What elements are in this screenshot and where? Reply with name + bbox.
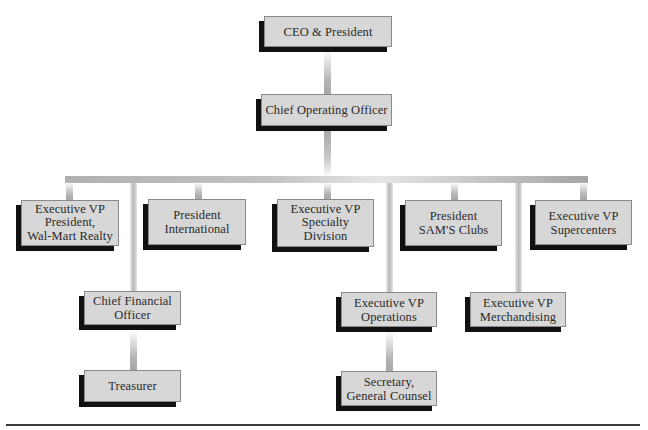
node-evp-operations: Executive VP Operations xyxy=(341,292,437,327)
node-label: Chief Operating Officer xyxy=(265,103,387,117)
connector-coo-bus xyxy=(324,130,331,177)
node-label: Executive VP Supercenters xyxy=(548,209,618,237)
connector-bus-operations xyxy=(386,183,393,292)
node-evp-supercenters: Executive VP Supercenters xyxy=(535,200,632,245)
connector-bus-merchandising xyxy=(515,183,522,292)
node-label: Chief Financial Officer xyxy=(93,294,172,322)
node-label: CEO & President xyxy=(284,25,373,39)
node-label: President SAM'S Clubs xyxy=(419,209,489,237)
node-treasurer: Treasurer xyxy=(84,370,181,402)
node-secretary-general-counsel: Secretary, General Counsel xyxy=(341,371,437,406)
connector-ceo-coo xyxy=(324,50,331,94)
connector-bus-cfo xyxy=(130,183,137,291)
connector-bus-sams xyxy=(451,182,458,200)
bottom-divider xyxy=(6,424,640,426)
node-ceo-president: CEO & President xyxy=(264,16,392,47)
connector-cfo-treasurer xyxy=(130,330,137,370)
node-label: Executive VP Merchandising xyxy=(480,296,556,324)
node-label: Executive VP Specialty Division xyxy=(290,203,360,244)
node-evp-merchandising: Executive VP Merchandising xyxy=(470,292,566,327)
node-evp-specialty-division: Executive VP Specialty Division xyxy=(277,199,374,247)
node-label: Secretary, General Counsel xyxy=(346,375,431,403)
node-chief-operating-officer: Chief Operating Officer xyxy=(261,94,392,126)
connector-bus-supercenters xyxy=(580,182,587,200)
node-evp-walmart-realty: Executive VP President, Wal-Mart Realty xyxy=(21,200,119,246)
connector-operations-secretary xyxy=(386,331,393,371)
node-label: Executive VP President, Wal-Mart Realty xyxy=(27,203,113,244)
node-chief-financial-officer: Chief Financial Officer xyxy=(84,291,181,325)
node-president-sams-clubs: President SAM'S Clubs xyxy=(405,200,502,246)
node-label: President International xyxy=(164,208,229,236)
connector-bus-international xyxy=(195,182,202,199)
connector-bus-realty xyxy=(66,182,73,200)
connector-bus-specialty xyxy=(324,182,331,199)
node-label: Treasurer xyxy=(108,379,156,393)
node-label: Executive VP Operations xyxy=(354,296,424,324)
node-president-international: President International xyxy=(148,199,246,245)
